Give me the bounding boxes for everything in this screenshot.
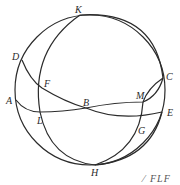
arc-m-g-h [95, 102, 143, 165]
arc-c-m [143, 78, 163, 102]
label-e: E [166, 107, 173, 118]
label-d: D [11, 51, 20, 62]
label-f: F [43, 78, 51, 89]
label-l: L [36, 115, 43, 126]
label-a: A [5, 95, 13, 106]
figure-caption: FLF [149, 173, 171, 184]
caption-mark: ⁄ [141, 173, 147, 184]
label-h: H [90, 167, 99, 178]
label-b: B [83, 97, 89, 108]
arc-d-f-b-e [22, 60, 162, 116]
label-c: C [166, 71, 173, 82]
label-m: M [135, 90, 145, 101]
arc-e-h [95, 112, 162, 165]
label-g: G [138, 125, 145, 136]
sphere-diagram: K D F C A B M E L G H ⁄ FLF [0, 0, 180, 185]
arc-k-f-l-h [38, 15, 95, 165]
label-k: K [74, 4, 83, 15]
